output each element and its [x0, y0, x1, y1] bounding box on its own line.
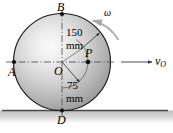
- dimension-150-value: 150: [66, 27, 83, 38]
- point-label-A: A: [8, 66, 15, 78]
- angular-velocity-label: ω: [104, 8, 111, 18]
- point-label-D: D: [57, 114, 66, 126]
- point-label-B: B: [57, 1, 64, 13]
- point-D-marker: [60, 108, 64, 112]
- dimension-75-unit: mm: [66, 93, 83, 104]
- point-label-P: P: [85, 47, 92, 59]
- velocity-label: vO: [155, 55, 166, 69]
- figure-canvas: B A O P D 150 mm 75 mm ω vO: [0, 0, 173, 133]
- dimension-150-unit: mm: [66, 40, 83, 51]
- diagram-svg: [0, 0, 173, 133]
- ground-shading: [0, 111, 173, 124]
- velocity-subscript: O: [160, 60, 166, 69]
- point-A-marker: [12, 60, 16, 64]
- point-P-marker: [86, 60, 91, 65]
- dimension-75-value: 75: [67, 80, 78, 91]
- point-label-O: O: [54, 65, 63, 77]
